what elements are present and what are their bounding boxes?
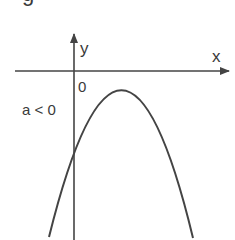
coefficient-condition-label: a < 0 [22, 102, 56, 117]
plot-area [0, 0, 235, 240]
x-axis-label: x [212, 48, 221, 65]
y-axis-label: y [80, 40, 89, 57]
parabola-diagram: g y x 0 a < 0 [0, 0, 235, 240]
parabola-curve [49, 90, 193, 238]
origin-label: 0 [78, 79, 86, 94]
